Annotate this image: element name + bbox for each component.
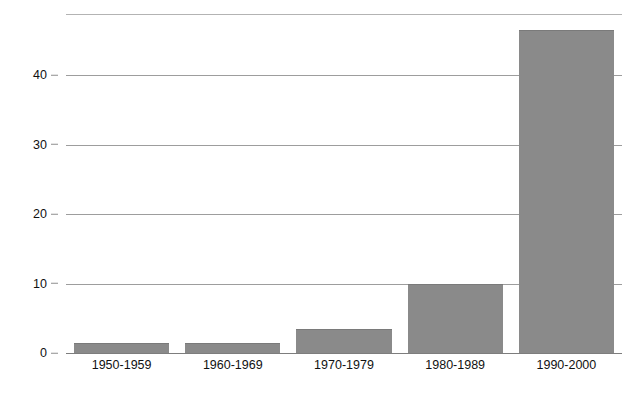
- y-tick-label: 40: [33, 68, 47, 82]
- plot-area: [66, 14, 622, 353]
- y-tick-label: 10: [33, 276, 47, 290]
- y-tick-30: 30: [0, 138, 58, 151]
- bar-slot: [408, 14, 503, 353]
- y-tick-mark: [51, 75, 58, 76]
- y-axis-tick-labels: 403020100: [0, 0, 58, 398]
- y-tick-label: 0: [40, 346, 47, 360]
- bar-1980-1989[interactable]: [408, 284, 503, 353]
- bar-1990-2000[interactable]: [519, 30, 614, 353]
- bar-slot: [519, 14, 614, 353]
- y-tick-label: 30: [33, 137, 47, 151]
- bar-slot: [185, 14, 280, 353]
- gridline-0: [66, 353, 622, 354]
- x-tick-label-1970-1979: 1970-1979: [288, 358, 399, 372]
- bar-slot: [74, 14, 169, 353]
- y-tick-label: 20: [33, 207, 47, 221]
- x-tick-label-1950-1959: 1950-1959: [66, 358, 177, 372]
- y-tick-mark: [51, 352, 58, 353]
- x-tick-label-1980-1989: 1980-1989: [400, 358, 511, 372]
- bar-chart: Nombre de feux de forêts majeurs 4030201…: [0, 0, 634, 398]
- bar-1950-1959[interactable]: [74, 343, 169, 353]
- x-tick-label-1990-2000: 1990-2000: [511, 358, 622, 372]
- y-tick-mark: [51, 214, 58, 215]
- y-tick-mark: [51, 144, 58, 145]
- bar-slot: [296, 14, 391, 353]
- y-tick-20: 20: [0, 208, 58, 221]
- y-tick-10: 10: [0, 277, 58, 290]
- bar-1960-1969[interactable]: [185, 343, 280, 353]
- bars-layer: [66, 14, 622, 353]
- y-tick-mark: [51, 283, 58, 284]
- bar-1970-1979[interactable]: [296, 329, 391, 353]
- x-axis-tick-labels: 1950-19591960-19691970-19791980-19891990…: [66, 358, 622, 380]
- y-tick-40: 40: [0, 69, 58, 82]
- y-tick-0: 0: [0, 347, 58, 360]
- x-tick-label-1960-1969: 1960-1969: [177, 358, 288, 372]
